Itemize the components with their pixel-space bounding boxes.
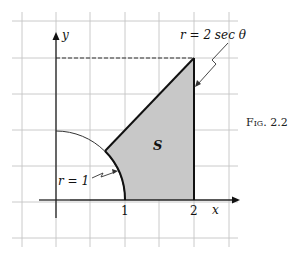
figure-2-2: y x 1 2 S r = 1 r = 2 sec θ Fig. 2.2 [0,0,288,256]
x-tick-2: 2 [190,204,198,218]
figure-caption: Fig. 2.2 [246,116,288,129]
region-s [105,58,194,200]
y-axis-arrow-icon [53,32,60,40]
leader-r-1 [92,172,115,178]
y-axis-label: y [61,28,69,42]
circle-label: r = 1 [58,174,89,188]
leader-r-2-sec-theta [198,43,228,84]
x-axis-label: x [212,203,219,217]
line-label: r = 2 sec θ [180,28,247,42]
region-label: S [153,138,162,153]
x-tick-1: 1 [121,204,129,218]
leader-arrowhead-icon [112,169,118,174]
